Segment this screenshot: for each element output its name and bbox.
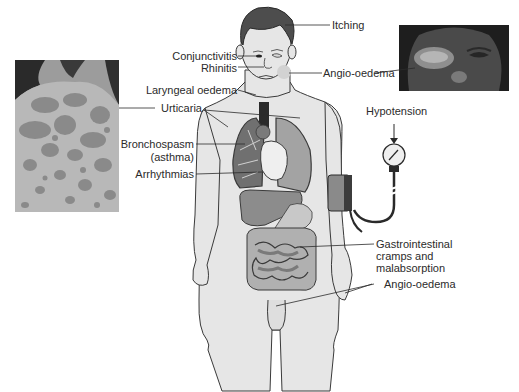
label-malabsorption: malabsorption bbox=[376, 262, 445, 274]
hypotension-arrow-head bbox=[390, 138, 398, 144]
label-hypotension: Hypotension bbox=[366, 105, 427, 117]
label-gastrointestinal: Gastrointestinal bbox=[376, 238, 452, 250]
heart bbox=[261, 141, 288, 180]
label-itching: Itching bbox=[332, 19, 364, 31]
label-bronchospasm-asthma: (asthma) bbox=[110, 151, 194, 163]
bp-cuff-band bbox=[344, 175, 352, 211]
label-laryngeal-oedema: Laryngeal oedema bbox=[130, 84, 237, 96]
label-bronchospasm: Bronchospasm bbox=[110, 138, 194, 150]
body-illustration bbox=[0, 0, 519, 392]
head bbox=[236, 7, 296, 79]
label-rhinitis: Rhinitis bbox=[155, 62, 237, 74]
large-intestine bbox=[247, 228, 317, 290]
label-angio-oedema-face: Angio-oedema bbox=[323, 67, 395, 79]
label-cramps-and: cramps and bbox=[376, 250, 433, 262]
gauge-tube bbox=[354, 172, 394, 222]
label-arrhythmias: Arrhythmias bbox=[110, 168, 194, 180]
allergy-manifestations-diagram: Itching Conjunctivitis Rhinitis Angio-oe… bbox=[0, 0, 519, 392]
label-angio-oedema-body: Angio-oedema bbox=[384, 278, 456, 290]
label-conjunctivitis: Conjunctivitis bbox=[155, 50, 237, 62]
label-urticaria: Urticaria bbox=[161, 102, 202, 114]
